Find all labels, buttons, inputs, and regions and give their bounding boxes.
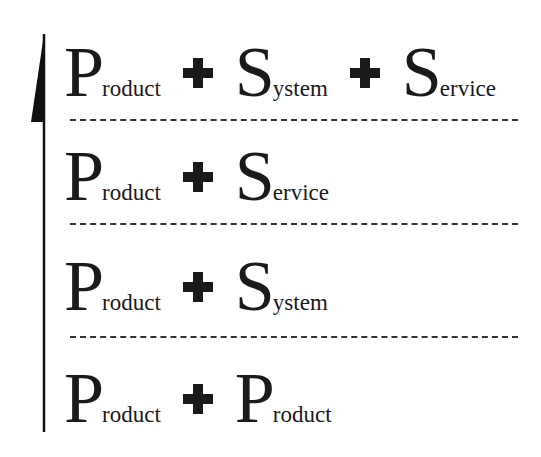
- plus-icon: [183, 162, 213, 192]
- term-rest: ystem: [273, 292, 328, 314]
- term-initial: P: [64, 368, 104, 428]
- term-rest: ervice: [273, 182, 329, 204]
- term-product: P roduct: [64, 42, 161, 102]
- term-system: S ystem: [235, 256, 328, 316]
- term-initial: P: [64, 146, 104, 206]
- term-rest: roduct: [102, 292, 161, 314]
- term-initial: S: [235, 146, 275, 206]
- row-product-system-service: P roduct S ystem S ervice: [64, 32, 496, 102]
- term-system: S ystem: [235, 42, 328, 102]
- plus-icon: [183, 384, 213, 414]
- term-product: P roduct: [235, 368, 332, 428]
- level-divider: [70, 336, 518, 338]
- term-initial: P: [64, 256, 104, 316]
- term-product: P roduct: [64, 256, 161, 316]
- term-product: P roduct: [64, 368, 161, 428]
- term-rest: roduct: [102, 182, 161, 204]
- term-initial: P: [235, 368, 275, 428]
- term-service: S ervice: [235, 146, 329, 206]
- plus-icon: [183, 272, 213, 302]
- term-rest: roduct: [102, 78, 161, 100]
- term-rest: roduct: [273, 404, 332, 426]
- row-product-system: P roduct S ystem: [64, 246, 328, 316]
- term-product: P roduct: [64, 146, 161, 206]
- term-initial: P: [64, 42, 104, 102]
- term-initial: S: [235, 256, 275, 316]
- plus-icon: [350, 58, 380, 88]
- row-product-service: P roduct S ervice: [64, 136, 329, 206]
- upward-arrow-icon: [0, 0, 60, 457]
- term-rest: roduct: [102, 404, 161, 426]
- level-divider: [70, 119, 518, 121]
- level-divider: [70, 223, 518, 225]
- term-rest: ystem: [273, 78, 328, 100]
- term-service: S ervice: [402, 42, 496, 102]
- term-initial: S: [235, 42, 275, 102]
- term-initial: S: [402, 42, 442, 102]
- row-product-product: P roduct P roduct: [64, 358, 332, 428]
- term-rest: ervice: [440, 78, 496, 100]
- plus-icon: [183, 58, 213, 88]
